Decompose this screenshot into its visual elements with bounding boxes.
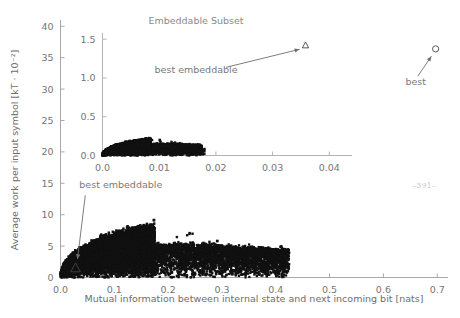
page-number: –391– xyxy=(412,181,435,190)
figure-container: 0510152025303540 0.00.10.20.30.40.50.60.… xyxy=(0,0,460,318)
tick-label: 0.01 xyxy=(149,162,170,173)
tick-label: 30 xyxy=(41,84,53,95)
tick-label: 0.0 xyxy=(53,284,68,295)
tick-label: 1.5 xyxy=(80,34,95,45)
main-x-axis-label: Mutual information between internal stat… xyxy=(85,293,424,304)
tick-label: 35 xyxy=(41,52,53,63)
tick-label: 40 xyxy=(41,21,53,32)
tick-label: 0 xyxy=(47,272,53,283)
annotation-best-embeddable-inset: best embeddable xyxy=(155,64,238,75)
tick-label: 0.0 xyxy=(80,150,95,161)
tick-label: 0.02 xyxy=(205,162,226,173)
annotation-best-main: best xyxy=(405,76,426,87)
tick-label: 0.7 xyxy=(430,284,445,295)
tick-label: 25 xyxy=(41,115,53,126)
scatter-figure: 0510152025303540 0.00.10.20.30.40.50.60.… xyxy=(0,0,460,318)
tick-label: 0.03 xyxy=(262,162,283,173)
tick-label: 10 xyxy=(41,209,53,220)
tick-label: 20 xyxy=(41,146,53,157)
tick-label: 0.0 xyxy=(95,162,110,173)
tick-label: 0.5 xyxy=(80,111,95,122)
tick-label: 5 xyxy=(47,241,53,252)
tick-label: 15 xyxy=(41,178,53,189)
tick-label: 0.04 xyxy=(319,162,340,173)
inset-title: Embeddable Subset xyxy=(148,15,243,26)
tick-label: 1.0 xyxy=(80,72,95,83)
main-y-axis-label: Average work per input symbol [kT · 10⁻²… xyxy=(9,50,20,250)
annotation-best-embeddable-main: best embeddable xyxy=(79,179,162,190)
